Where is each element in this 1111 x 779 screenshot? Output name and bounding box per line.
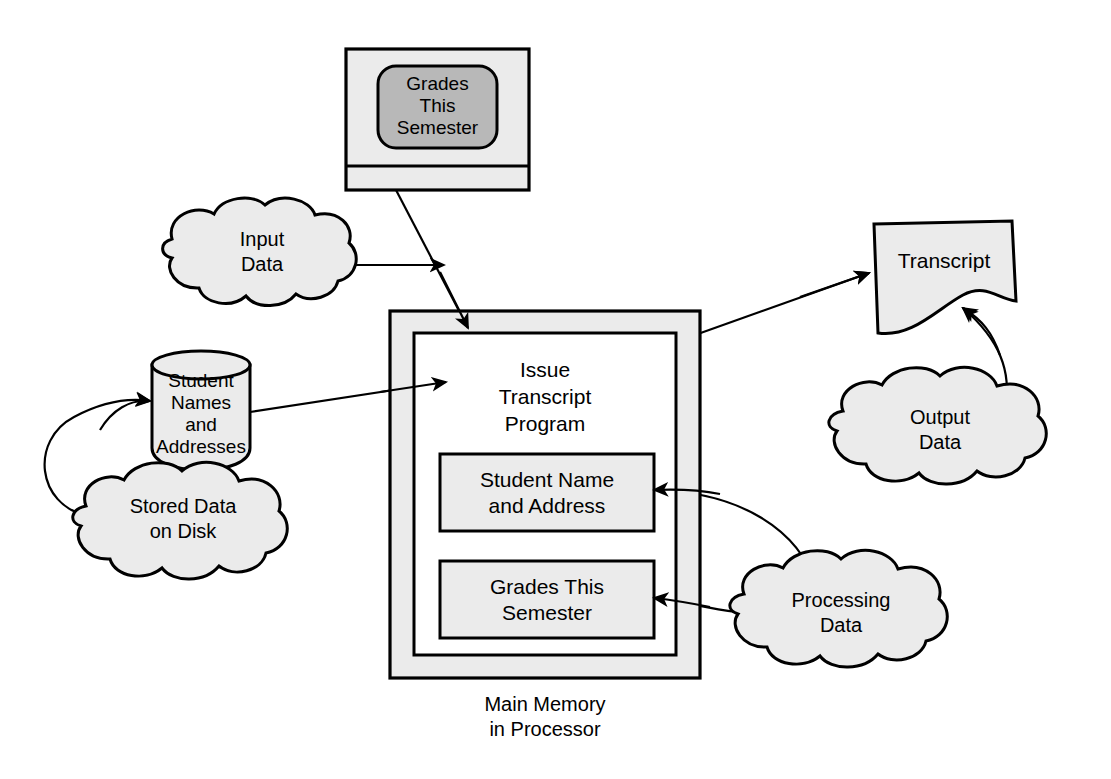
processing-data-cloud-label-line-1: Processing — [792, 589, 891, 611]
main-memory-caption-line-2: in Processor — [489, 718, 600, 740]
student-name-address-label-line-2: and Address — [489, 494, 606, 517]
input-data-cloud: Input Data — [163, 198, 357, 305]
grades-this-semester-box — [440, 561, 654, 638]
stored-data-cloud-label-line-1: Stored Data — [130, 495, 238, 517]
monitor: Grades This Semester — [346, 49, 529, 190]
edge-output-cloud-to-transcript-tip — [963, 308, 1000, 355]
monitor-screen-label-line-3: Semester — [397, 117, 479, 138]
program-label-line-2: Transcript — [499, 385, 592, 408]
diagram-canvas: Grades This Semester Input Data Student … — [0, 0, 1111, 779]
stored-data-cloud-label-line-2: on Disk — [150, 520, 218, 542]
stored-data-cloud: Stored Data on Disk — [73, 462, 287, 579]
program-label-line-1: Issue — [520, 358, 570, 381]
main-memory-caption-line-1: Main Memory — [484, 693, 605, 715]
cylinder-label-line-4: Addresses — [156, 436, 246, 457]
output-data-cloud-label-line-1: Output — [910, 406, 970, 428]
student-name-address-box — [440, 454, 654, 531]
main-memory-box: Issue Transcript Program Student Name an… — [390, 311, 700, 740]
input-data-cloud-shape — [163, 198, 357, 305]
output-data-cloud-label-line-2: Data — [919, 431, 962, 453]
monitor-screen-label-line-2: This — [420, 95, 456, 116]
grades-this-semester-label-line-2: Semester — [502, 601, 592, 624]
grades-this-semester-label-line-1: Grades This — [490, 575, 604, 598]
data-flow-diagram: Grades This Semester Input Data Student … — [0, 0, 1111, 779]
transcript-shape — [874, 221, 1016, 334]
output-data-cloud: Output Data — [829, 367, 1046, 484]
program-label-line-3: Program — [505, 412, 586, 435]
edge-stored-to-cylinder-tip — [100, 401, 150, 430]
student-database-cylinder: Student Names and Addresses — [152, 351, 250, 470]
transcript-label: Transcript — [898, 249, 991, 272]
cylinder-label-line-1: Student — [168, 370, 234, 391]
transcript-document: Transcript — [874, 221, 1016, 334]
processing-data-cloud-label-line-2: Data — [820, 614, 863, 636]
cylinder-label-line-3: and — [185, 414, 217, 435]
input-data-cloud-label-line-2: Data — [241, 253, 284, 275]
cylinder-label-line-2: Names — [171, 392, 231, 413]
processing-data-cloud: Processing Data — [730, 550, 947, 667]
edge-memory-to-transcript-tip — [800, 273, 869, 297]
monitor-screen-label-line-1: Grades — [406, 73, 468, 94]
input-data-cloud-label-line-1: Input — [240, 228, 285, 250]
student-name-address-label-line-1: Student Name — [480, 468, 614, 491]
